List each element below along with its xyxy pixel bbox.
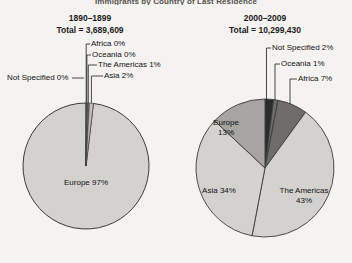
- left-callout-not-specified: Not Specified 0%: [7, 73, 68, 82]
- left-callout-americas: The Americas 1%: [98, 60, 161, 69]
- right-leader-oceania: [275, 64, 280, 100]
- right-label-americas-name: The Americas: [266, 186, 342, 196]
- right-label-europe-value: 13%: [200, 128, 252, 138]
- right-label-americas: The Americas 43%: [266, 186, 342, 205]
- right-callout-not-specified: Not Specified 2%: [272, 43, 333, 52]
- right-callout-oceania: Oceania 1%: [281, 59, 325, 68]
- right-leader-not-specified: [267, 48, 272, 100]
- right-label-europe-name: Europe: [200, 118, 252, 128]
- left-label-europe: Europe 97%: [46, 178, 126, 188]
- left-leader-americas: [88, 65, 97, 103]
- pie-graphics: [0, 0, 352, 263]
- right-label-asia: Asia 34%: [188, 186, 250, 196]
- right-callout-africa: Africa 7%: [298, 74, 332, 83]
- left-leader-asia: [91, 76, 103, 103]
- right-label-americas-value: 43%: [266, 196, 342, 206]
- left-callout-oceania: Oceania 0%: [92, 50, 136, 59]
- left-callout-asia: Asia 2%: [104, 71, 133, 80]
- right-leader-africa: [290, 79, 297, 104]
- pie-chart-figure: Immigrants by Country of Last Residence …: [0, 0, 352, 263]
- left-leader-oceania: [87, 55, 91, 103]
- left-callout-africa: Africa 0%: [91, 39, 125, 48]
- right-label-europe: Europe 13%: [200, 118, 252, 137]
